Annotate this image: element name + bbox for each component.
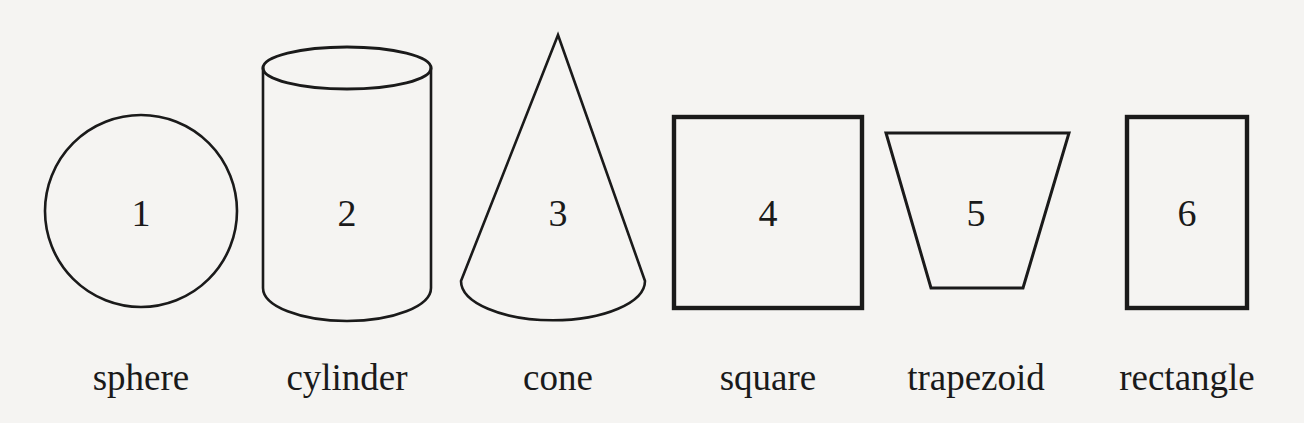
shape-number: 1 xyxy=(132,192,151,234)
cone-outline-icon xyxy=(461,35,645,320)
shape-caption: rectangle xyxy=(1119,357,1255,398)
cylinder-outline-icon xyxy=(263,47,431,321)
shape-number: 6 xyxy=(1178,192,1197,234)
figure-cone: 3 cone xyxy=(461,35,645,398)
figure-rectangle: 6 rectangle xyxy=(1119,117,1255,398)
shape-number: 5 xyxy=(967,192,986,234)
shape-caption: square xyxy=(720,357,817,398)
shapes-worksheet: 1 sphere 2 cylinder 3 cone 4 square xyxy=(0,0,1304,423)
shape-caption: cylinder xyxy=(286,357,407,398)
shape-number: 3 xyxy=(549,192,568,234)
shape-caption: sphere xyxy=(93,357,190,398)
shape-caption: cone xyxy=(523,357,593,398)
shape-number: 4 xyxy=(759,192,778,234)
figure-square: 4 square xyxy=(674,117,862,398)
figure-cylinder: 2 cylinder xyxy=(263,47,431,398)
figure-sphere: 1 sphere xyxy=(45,115,237,398)
shape-caption: trapezoid xyxy=(907,357,1045,398)
shape-number: 2 xyxy=(338,192,357,234)
figure-trapezoid: 5 trapezoid xyxy=(886,133,1069,398)
